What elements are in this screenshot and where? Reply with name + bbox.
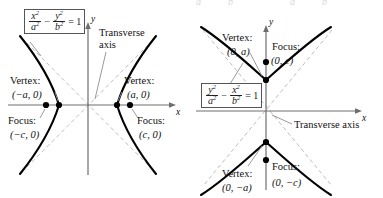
top-vertex-label: Vertex:: [222, 33, 252, 44]
bottom-focus-label: Focus:: [272, 162, 300, 173]
left-focus-label: Focus:: [8, 116, 36, 127]
top-focus-label: Focus:: [272, 42, 300, 53]
left-eq-operator: −: [44, 17, 50, 27]
left-x-axis-label: x: [176, 107, 180, 117]
top-vertex-coord: (0, a): [227, 47, 250, 58]
top-focus-coord: (0, c): [271, 56, 293, 67]
focus-bottom-point: [263, 157, 269, 163]
left-equation: x2 a2 − y2 b2 = 1: [28, 11, 81, 32]
vertex-left-point: [56, 102, 62, 108]
bottom-vertex-coord: (0, −a): [222, 183, 252, 194]
left-y-axis-label: y: [91, 14, 95, 24]
left-transverse-axis-label: Transverse axis: [99, 27, 145, 50]
left-eq-frac1: x2 a2: [29, 11, 41, 32]
bottom-vertex-label: Vertex:: [222, 169, 252, 180]
left-eq-frac2: y2 b2: [53, 11, 65, 32]
right-eq-frac2: x2 b2: [230, 85, 242, 106]
focus-left-point: [43, 102, 49, 108]
left-equation-box: x2 a2 − y2 b2 = 1: [24, 9, 85, 34]
left-vertex-label: Vertex:: [10, 76, 40, 87]
bottom-focus-coord: (0, −c): [272, 178, 301, 189]
left-transverse-axis-line1: Transverse: [99, 27, 145, 39]
right-eq-operator: −: [221, 91, 227, 101]
right-equation: y2 a2 − x2 b2 = 1: [205, 85, 258, 106]
right-x-axis-label: x: [362, 113, 366, 123]
right-focus-label: Focus:: [137, 116, 165, 127]
right-vertex-label: Vertex:: [124, 76, 154, 87]
vertex-bottom-point: [263, 139, 269, 145]
right-y-axis-label: y: [269, 17, 273, 27]
left-eq-rhs: = 1: [68, 17, 81, 27]
left-transverse-axis-line2: axis: [99, 39, 145, 51]
right-equation-box: y2 a2 − x2 b2 = 1: [201, 83, 262, 108]
right-eq-frac1: y2 a2: [206, 85, 218, 106]
right-eq-rhs: = 1: [245, 91, 258, 101]
left-focus-coord: (−c, 0): [10, 130, 39, 141]
right-leader-lines: [230, 53, 292, 166]
focus-right-point: [127, 102, 133, 108]
left-vertex-coord: (−a, 0): [12, 90, 42, 101]
right-transverse-axis-label: Transverse axis: [294, 119, 359, 131]
focus-top-point: [263, 59, 269, 65]
right-focus-coord: (c, 0): [139, 130, 161, 141]
vertex-top-point: [263, 77, 269, 83]
right-vertex-coord: (a, 0): [127, 90, 150, 101]
vertex-right-point: [114, 102, 120, 108]
